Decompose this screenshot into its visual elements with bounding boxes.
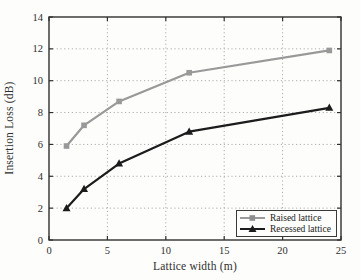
x-tick-label: 5: [105, 245, 110, 256]
square-marker-icon: [81, 123, 87, 129]
x-tick-label: 20: [277, 245, 288, 256]
x-tick-label: 25: [336, 245, 347, 256]
square-marker-icon: [186, 70, 192, 76]
triangle-marker-icon: [239, 224, 266, 234]
y-tick-label: 12: [33, 43, 44, 54]
y-tick-label: 4: [38, 171, 44, 182]
y-tick-label: 6: [38, 139, 43, 150]
square-marker-icon: [239, 213, 266, 223]
series-line: [67, 108, 330, 208]
legend-label-raised: Raised lattice: [270, 213, 321, 223]
series-line: [67, 50, 330, 146]
legend-label-recessed: Recessed lattice: [270, 224, 331, 234]
legend: Raised lattice Recessed lattice: [236, 210, 337, 237]
y-axis-label: Insertion Loss (dB): [3, 23, 15, 233]
y-tick-label: 14: [33, 12, 44, 23]
x-axis-label: Lattice width (m): [49, 260, 341, 272]
square-marker-icon: [116, 99, 122, 105]
legend-entry-raised: Raised lattice: [239, 212, 334, 224]
y-tick-label: 0: [38, 235, 43, 246]
chart-svg: 051015202502468101214: [0, 0, 361, 280]
y-tick-label: 10: [33, 75, 44, 86]
square-marker-icon: [327, 48, 333, 54]
y-tick-label: 2: [38, 203, 43, 214]
y-tick-label: 8: [38, 107, 43, 118]
x-tick-label: 10: [161, 245, 172, 256]
x-tick-label: 0: [46, 245, 51, 256]
legend-entry-recessed: Recessed lattice: [239, 224, 334, 236]
line-chart-figure: 051015202502468101214 Lattice width (m) …: [0, 0, 361, 280]
square-marker-icon: [64, 143, 70, 149]
x-tick-label: 15: [219, 245, 230, 256]
